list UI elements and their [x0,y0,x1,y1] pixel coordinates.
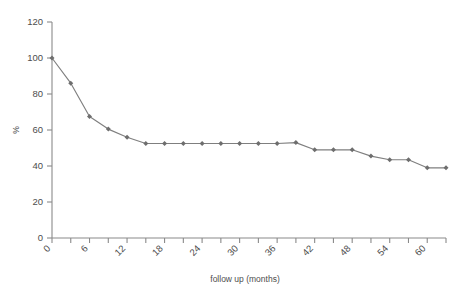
x-tick-label: 48 [337,243,352,258]
x-tick-label: 30 [225,243,240,258]
y-tick-label: 40 [32,160,43,171]
x-tick-label: 12 [112,243,127,258]
data-point-marker [444,165,449,170]
y-tick-label: 0 [38,232,43,243]
data-point-marker [293,140,298,145]
data-point-marker [331,147,336,152]
data-point-marker [256,141,261,146]
data-point-marker [350,147,355,152]
x-tick-label: 36 [262,243,277,258]
x-tick-label: 0 [41,243,53,255]
data-point-marker [200,141,205,146]
data-point-marker [237,141,242,146]
data-point-marker [425,165,430,170]
x-axis-title: follow up (months) [210,274,280,284]
data-point-marker [181,141,186,146]
x-tick-label: 42 [300,243,315,258]
data-point-marker [312,147,317,152]
data-point-marker [387,157,392,162]
data-point-marker [218,141,223,146]
data-point-marker [143,141,148,146]
data-point-marker [125,135,130,140]
data-point-marker [162,141,167,146]
x-tick-label: 54 [375,243,390,258]
survival-line-chart: 02040608010012006121824303642485460%foll… [0,0,468,294]
y-tick-label: 80 [32,88,43,99]
data-point-marker [275,141,280,146]
y-tick-label: 20 [32,196,43,207]
x-tick-label: 24 [187,243,202,258]
data-point-marker [368,154,373,159]
y-tick-label: 120 [27,16,43,27]
y-axis-title: % [11,126,21,134]
chart-figure: 02040608010012006121824303642485460%foll… [0,0,468,294]
data-point-marker [406,157,411,162]
y-tick-label: 100 [27,52,43,63]
x-tick-label: 6 [78,243,90,255]
series-line-survival [52,58,446,168]
y-tick-label: 60 [32,124,43,135]
x-tick-label: 60 [412,243,427,258]
x-tick-label: 18 [150,243,165,258]
